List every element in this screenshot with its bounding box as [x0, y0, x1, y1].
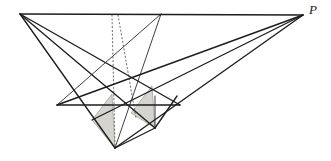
- shaded-regions-group: [92, 86, 155, 148]
- geometry-diagram: P: [0, 0, 331, 161]
- figure-canvas: P: [0, 0, 331, 161]
- edge-left-apex-to-bottom-vertex: [20, 14, 115, 148]
- edge-P-to-center-cross: [92, 15, 303, 120]
- dotted-construction-group: [112, 15, 136, 148]
- edge-lower-right-vertex-to-right-rail: [155, 96, 177, 128]
- edge-P-to-left-mid-vertex: [57, 15, 303, 105]
- top-edge-left-apex-to-P: [20, 14, 303, 15]
- edge-left-apex-to-center-lower-cross: [20, 14, 155, 128]
- edge-P-to-bottom-vertex: [115, 15, 303, 148]
- vertex-label-P: P: [308, 2, 317, 17]
- solid-lines-group: [20, 14, 303, 148]
